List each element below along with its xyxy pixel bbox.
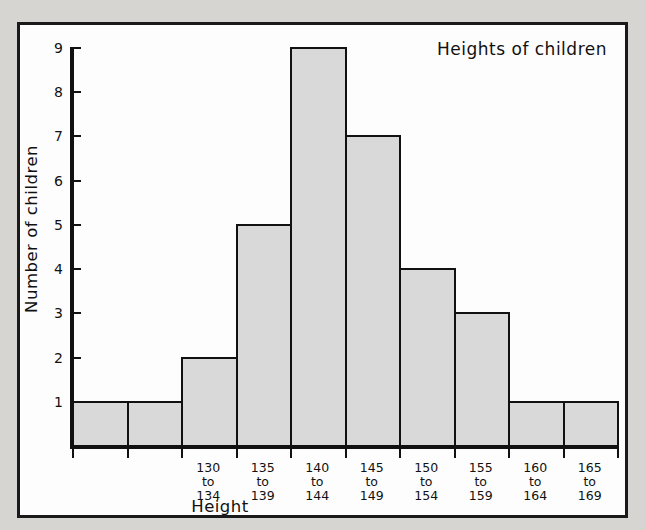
x-tick-label: 155 to 159 [454, 461, 509, 503]
x-tick-mark [345, 449, 347, 458]
bar [508, 401, 565, 445]
y-tick-label: 9 [54, 41, 63, 55]
bar [290, 47, 347, 445]
x-tick-mark [290, 449, 292, 458]
x-tick-label: 150 to 154 [399, 461, 454, 503]
bar [563, 401, 620, 445]
x-tick-label [72, 461, 127, 503]
bar [181, 357, 238, 445]
bar [454, 312, 511, 445]
y-tick-label: 3 [54, 306, 63, 320]
y-tick-label: 4 [54, 262, 63, 276]
x-tick-label [127, 461, 182, 503]
x-tick-mark [399, 449, 401, 458]
y-axis-title: Number of children [22, 145, 41, 313]
x-tick-mark [181, 449, 183, 458]
x-tick-label: 135 to 139 [236, 461, 291, 503]
x-tick-mark [454, 449, 456, 458]
x-tick-label: 160 to 164 [508, 461, 563, 503]
x-axis-ticks [72, 449, 617, 459]
bar [72, 401, 129, 445]
plot-area: 123456789 130 to 134135 to 139140 to 144… [70, 47, 615, 448]
bar [236, 224, 293, 445]
x-axis-tick-labels: 130 to 134135 to 139140 to 144145 to 149… [72, 461, 617, 503]
x-tick-label: 145 to 149 [345, 461, 400, 503]
x-tick-mark [236, 449, 238, 458]
x-tick-label: 140 to 144 [290, 461, 345, 503]
bar [345, 135, 402, 445]
histogram-bars [72, 47, 617, 445]
bar [399, 268, 456, 445]
x-tick-mark [617, 449, 619, 458]
y-tick-label: 2 [54, 351, 63, 365]
y-tick-label: 1 [54, 395, 63, 409]
y-tick-label: 7 [54, 129, 63, 143]
figure-frame: Heights of children Number of children H… [17, 22, 628, 518]
x-tick-mark [508, 449, 510, 458]
bar [127, 401, 184, 445]
y-tick-label: 6 [54, 174, 63, 188]
x-tick-label: 130 to 134 [181, 461, 236, 503]
x-tick-mark [72, 449, 74, 458]
x-tick-mark [563, 449, 565, 458]
y-tick-label: 5 [54, 218, 63, 232]
x-tick-label: 165 to 169 [563, 461, 618, 503]
y-tick-label: 8 [54, 85, 63, 99]
x-tick-mark [127, 449, 129, 458]
